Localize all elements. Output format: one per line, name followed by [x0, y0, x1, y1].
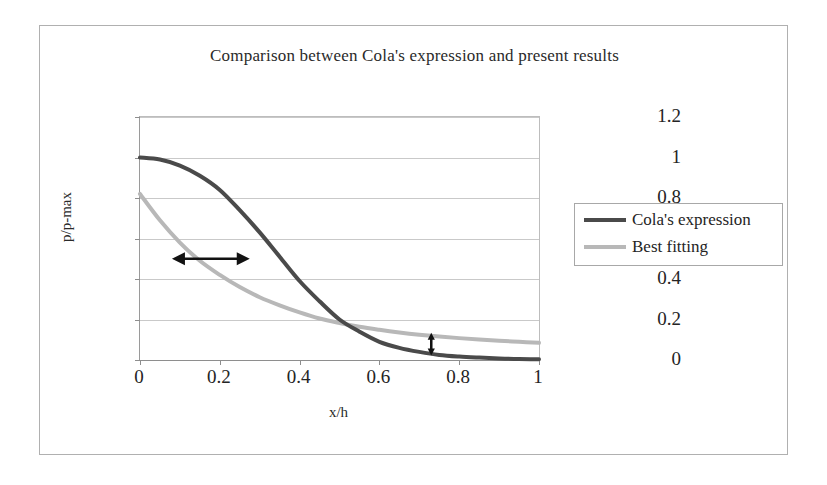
horizontal-span-arrow	[172, 252, 250, 265]
x-tick-label: 0.8	[428, 367, 488, 386]
chart-title: Comparison between Cola's expression and…	[40, 46, 789, 66]
y-tick-label: 0.4	[621, 268, 681, 287]
x-tick-label: 0.2	[189, 367, 249, 386]
x-tick-label: 0	[109, 367, 169, 386]
x-tick-label: 0.4	[269, 367, 329, 386]
legend-swatch-line	[584, 218, 626, 222]
plot-area	[139, 116, 540, 360]
chart-legend: Cola's expression Best fitting	[574, 203, 783, 266]
legend-entry-cola: Cola's expression	[584, 211, 751, 228]
data-curves	[140, 117, 539, 360]
y-tick-label: 0.2	[621, 309, 681, 328]
x-axis-title: x/h	[139, 404, 538, 421]
y-tick-label: 0	[621, 349, 681, 368]
x-tick-label: 1	[508, 367, 568, 386]
chart-frame: Comparison between Cola's expression and…	[39, 25, 788, 455]
legend-swatch-line	[584, 245, 626, 249]
y-tick-label: 1.2	[621, 106, 681, 125]
x-tick-label: 0.6	[348, 367, 408, 386]
y-axis-title: p/p-max	[58, 192, 75, 242]
legend-label: Cola's expression	[632, 211, 751, 228]
x-axis-line	[140, 360, 540, 361]
legend-label: Best fitting	[632, 238, 708, 255]
legend-entry-best-fitting: Best fitting	[584, 238, 708, 255]
y-tick-label: 1	[621, 147, 681, 166]
